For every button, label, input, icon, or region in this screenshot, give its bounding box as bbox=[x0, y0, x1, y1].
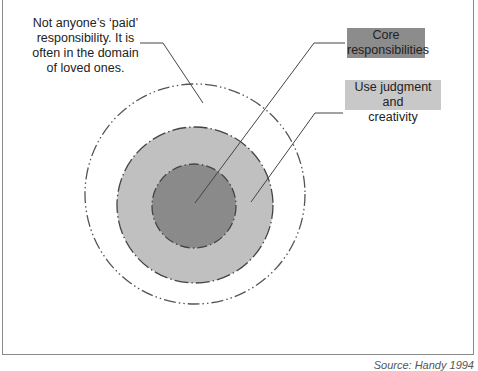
inner-ring bbox=[152, 164, 236, 248]
judgment-creativity-label: Use judgment and creativity bbox=[345, 80, 441, 110]
outer-label-line: responsibility. It is bbox=[18, 31, 153, 46]
outer-ring-label: Not anyone’s ‘paid’ responsibility. It i… bbox=[18, 16, 153, 76]
outer-label-line: Not anyone’s ‘paid’ bbox=[18, 16, 153, 31]
outer-label-line: often in the domain bbox=[18, 46, 153, 61]
source-caption: Source: Handy 1994 bbox=[374, 359, 474, 371]
core-label-line: responsibilities bbox=[347, 43, 425, 58]
core-responsibilities-label: Core responsibilities bbox=[347, 28, 425, 58]
core-label-line: Core bbox=[347, 28, 425, 43]
judgment-label-line: creativity bbox=[345, 110, 441, 125]
judgment-label-line: Use judgment and bbox=[345, 80, 441, 110]
outer-label-line: of loved ones. bbox=[18, 61, 153, 76]
